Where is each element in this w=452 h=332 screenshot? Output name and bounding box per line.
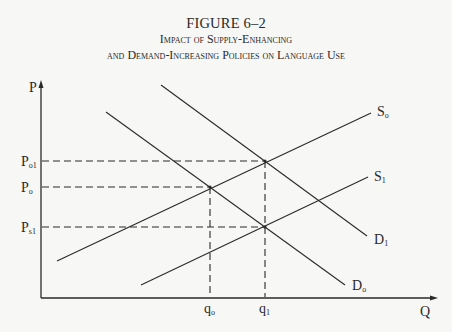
price-label-ps1: Ps1: [21, 221, 36, 236]
demand-curve-d0: [106, 112, 345, 285]
equilibrium-point-e2: [263, 225, 266, 228]
equilibrium-point-e0: [208, 185, 211, 188]
supply-curve-s0: [57, 113, 371, 261]
x-axis-label: Q: [420, 305, 430, 319]
supply-curve-s1: [141, 177, 368, 285]
x-axis-arrow-icon: [430, 296, 438, 301]
price-label-p01: Po1: [21, 155, 37, 170]
y-axis-arrow-icon: [39, 80, 44, 88]
y-axis-label: P: [29, 81, 37, 95]
label-d0: Do: [352, 279, 366, 294]
supply-demand-diagram: [0, 0, 452, 332]
label-s0: So: [377, 105, 389, 120]
price-label-p0: Po: [21, 181, 33, 196]
label-d1: D1: [374, 233, 388, 248]
quantity-label-q1: q1: [259, 302, 270, 317]
label-s1: S1: [374, 170, 386, 185]
equilibrium-point-e1: [263, 159, 266, 162]
quantity-label-q0: qo: [204, 302, 215, 317]
